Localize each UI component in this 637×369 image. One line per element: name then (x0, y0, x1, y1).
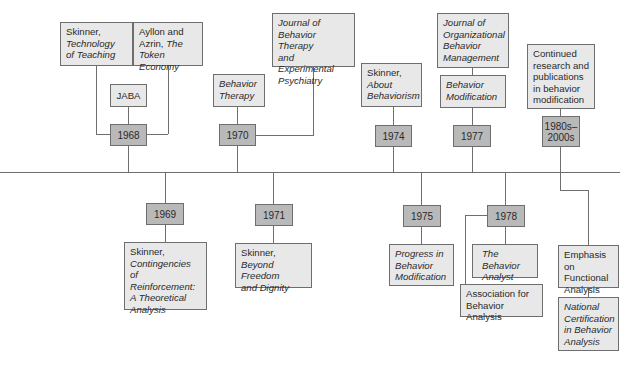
event-text: Behavior (219, 78, 259, 90)
event-text: Skinner, (367, 67, 416, 79)
event-text: Behaviorism (367, 90, 416, 102)
event-skinner-about-behaviorism: Skinner, About Behaviorism (361, 63, 422, 107)
year-label: 2000s (547, 132, 574, 143)
connector (168, 66, 169, 134)
connector (560, 147, 561, 191)
event-text: Behavior (446, 79, 500, 91)
event-text: The Behavior (482, 248, 532, 271)
connector (393, 146, 394, 172)
event-skinner-contingencies-of-reinforcement: Skinner, Contingencies of Reinforcement:… (124, 242, 207, 310)
connector (560, 190, 589, 191)
connector (165, 172, 166, 203)
event-text: Analysis (564, 284, 613, 296)
year-1969: 1969 (146, 203, 184, 225)
connector (465, 215, 487, 216)
year-label: 1980s– (545, 121, 578, 132)
event-behavior-therapy: Behavior Therapy (213, 74, 265, 107)
event-text: Behavior Analysis (466, 300, 537, 323)
year-label: 1970 (226, 130, 248, 141)
event-text: Beyond Freedom (241, 259, 306, 282)
event-text: Progress in (395, 248, 448, 260)
event-text: Azrin, The (139, 38, 197, 50)
event-text: Psychiatry (278, 75, 349, 87)
event-text: Behavior (443, 40, 503, 52)
event-text: in Behavior (564, 324, 613, 336)
connector (273, 172, 274, 204)
connector (465, 215, 466, 284)
year-label: 1978 (495, 211, 517, 222)
connector (128, 145, 129, 172)
year-label: 1974 (382, 131, 404, 142)
event-text: Therapy (219, 90, 259, 102)
event-text: Skinner, (241, 247, 306, 259)
event-text: Functional (564, 272, 613, 284)
year-1970: 1970 (219, 124, 256, 146)
event-text: Management (443, 52, 503, 64)
connector (472, 146, 473, 172)
event-text: Token Economy (139, 49, 197, 72)
event-association-for-behavior-analysis: Association for Behavior Analysis (460, 284, 543, 317)
event-emphasis-functional-analysis: Emphasis on Functional Analysis (558, 245, 619, 288)
event-text: publications (533, 71, 589, 83)
connector (96, 134, 110, 135)
connector (393, 107, 394, 125)
event-text: Analysis (564, 336, 613, 348)
year-label: 1975 (411, 211, 433, 222)
timeline-axis (0, 172, 620, 173)
event-continued-research: Continued research and publications in b… (527, 44, 595, 109)
behavior-modification-timeline: Skinner, Technology of Teaching Ayllon a… (0, 0, 637, 369)
event-journal-behavior-therapy-experimental-psychiatry: Journal of Behavior Therapy and Experime… (272, 13, 355, 67)
connector (560, 109, 561, 116)
event-text: National (564, 301, 613, 313)
year-1974: 1974 (375, 125, 412, 147)
event-text: research and (533, 60, 589, 72)
connector (588, 190, 589, 245)
event-text: and Experimental (278, 52, 349, 75)
event-the-behavior-analyst: The Behavior Analyst (472, 244, 538, 278)
event-text-part: The (166, 38, 183, 49)
connector (146, 134, 168, 135)
event-text: JABA (117, 90, 141, 102)
event-text: Certification (564, 313, 613, 325)
connector (273, 225, 274, 243)
connector (237, 107, 238, 124)
year-1980s-2000s: 1980s– 2000s (542, 116, 580, 147)
event-skinner-technology-of-teaching: Skinner, Technology of Teaching (60, 22, 133, 66)
event-text: of Teaching (66, 49, 127, 61)
connector (237, 145, 238, 172)
connector (128, 107, 129, 124)
event-text: Behavior (395, 260, 448, 272)
connector (472, 68, 473, 75)
event-behavior-modification: Behavior Modification (440, 75, 506, 108)
event-progress-in-behavior-modification: Progress in Behavior Modification (389, 244, 454, 286)
year-1975: 1975 (403, 205, 441, 227)
event-text: Skinner, (130, 246, 201, 258)
year-label: 1969 (154, 209, 176, 220)
event-text: of Reinforcement: (130, 269, 201, 292)
event-text: Journal of (278, 17, 349, 29)
connector (505, 172, 506, 205)
connector (256, 135, 314, 136)
connector (165, 224, 166, 242)
year-1968: 1968 (110, 124, 147, 146)
event-text: Journal of (443, 17, 503, 29)
event-text: About (367, 79, 416, 91)
event-ayllon-azrin-token-economy: Ayllon and Azrin, The Token Economy (133, 22, 203, 66)
event-text: Behavior Therapy (278, 29, 349, 52)
connector (96, 66, 97, 134)
event-skinner-beyond-freedom-and-dignity: Skinner, Beyond Freedom and Dignity (235, 243, 312, 288)
year-label: 1971 (263, 210, 285, 221)
event-text: A Theoretical (130, 292, 201, 304)
event-text: Organizational (443, 29, 503, 41)
event-text: and Dignity (241, 282, 306, 294)
year-1977: 1977 (453, 125, 491, 147)
year-1978: 1978 (487, 205, 525, 227)
event-text: Modification (395, 271, 448, 283)
event-text: Modification (446, 91, 500, 103)
year-label: 1977 (461, 131, 483, 142)
event-text: Continued (533, 48, 589, 60)
event-text: Technology (66, 38, 127, 50)
event-jaba: JABA (110, 84, 147, 107)
connector (421, 226, 422, 244)
event-text: in behavior (533, 83, 589, 95)
